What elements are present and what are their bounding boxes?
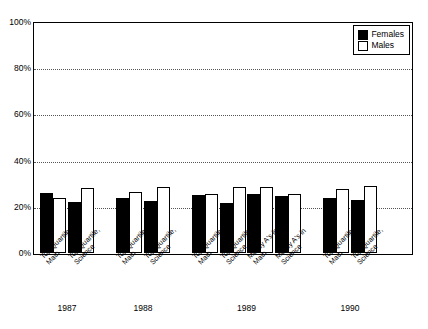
x-group-label-1990: 1990	[340, 303, 359, 313]
x-axis-category-labels: Top Quartile,MathTop Quartile,ScienceTop…	[33, 253, 411, 301]
legend-swatch-males-icon	[358, 41, 368, 51]
gridline-60	[34, 115, 412, 116]
legend-item-females: Females	[358, 29, 404, 40]
plot-area: Females Males	[33, 22, 413, 255]
legend-label-females: Females	[371, 29, 404, 40]
bar-chart: 100% 80% 60% 40% 20% 0% Females Males To…	[0, 0, 428, 329]
legend-swatch-females-icon	[358, 30, 368, 40]
gridline-40	[34, 162, 412, 163]
y-axis-tick-labels: 100% 80% 60% 40% 20% 0%	[0, 22, 31, 253]
y-tick-100: 100%	[1, 18, 31, 27]
legend-item-males: Males	[358, 40, 404, 51]
y-tick-0: 0%	[1, 249, 31, 258]
x-group-label-1988: 1988	[133, 303, 152, 313]
legend: Females Males	[353, 25, 410, 55]
legend-label-males: Males	[371, 40, 394, 51]
gridline-20	[34, 208, 412, 209]
x-group-label-1987: 1987	[57, 303, 76, 313]
gridline-80	[34, 69, 412, 70]
y-tick-20: 20%	[1, 203, 31, 212]
x-group-label-1989: 1989	[237, 303, 256, 313]
x-axis-group-labels: 1987198819891990	[33, 303, 411, 319]
y-tick-60: 60%	[1, 110, 31, 119]
y-tick-80: 80%	[1, 64, 31, 73]
y-tick-40: 40%	[1, 156, 31, 165]
